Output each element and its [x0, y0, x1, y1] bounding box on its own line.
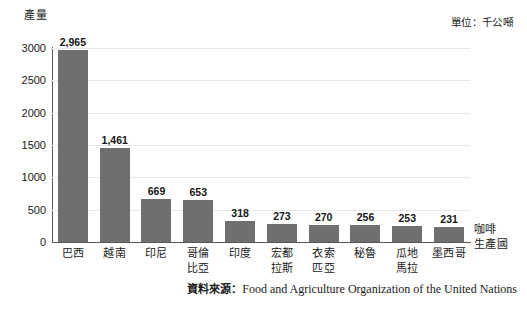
- bar-value-label: 231: [440, 213, 458, 225]
- coffee-production-bar-chart: 產量 單位：千公噸 300025002000150010005000 2,965…: [0, 0, 527, 310]
- category-label: 哥倫 比亞: [177, 246, 219, 276]
- bar-group: 253: [386, 48, 428, 242]
- category-label: 墨西哥: [428, 246, 470, 261]
- y-axis-tick-label: 2000: [22, 107, 46, 119]
- y-axis-title: 產量: [24, 6, 47, 22]
- bar[interactable]: [267, 224, 297, 242]
- bar-value-label: 253: [399, 212, 417, 224]
- category-label: 瓜地 馬拉: [386, 246, 428, 276]
- bar[interactable]: [309, 225, 339, 242]
- source-label: 資料來源：: [187, 283, 242, 295]
- bar-value-label: 273: [273, 210, 291, 222]
- bars-layer: 2,9651,461669653318273270256253231: [52, 48, 470, 242]
- bar[interactable]: [434, 227, 464, 242]
- y-axis-tick-label: 3000: [22, 42, 46, 54]
- bar-value-label: 653: [190, 186, 208, 198]
- category-label: 秘魯: [345, 246, 387, 261]
- source-line: 資料來源：Food and Agriculture Organization o…: [0, 280, 517, 297]
- category-label: 宏都 拉斯: [261, 246, 303, 276]
- bar[interactable]: [350, 225, 380, 242]
- bar-group: 256: [345, 48, 387, 242]
- bar[interactable]: [183, 200, 213, 242]
- bar-value-label: 318: [231, 207, 249, 219]
- category-label: 越南: [94, 246, 136, 261]
- bar-group: 1,461: [94, 48, 136, 242]
- bar-value-label: 669: [148, 185, 166, 197]
- bar-group: 231: [428, 48, 470, 242]
- y-axis-tick-label: 1500: [22, 139, 46, 151]
- source-text: Food and Agriculture Organization of the…: [242, 282, 517, 296]
- bar-group: 2,965: [52, 48, 94, 242]
- bar-value-label: 2,965: [60, 36, 86, 48]
- gridline: [52, 242, 470, 243]
- bar[interactable]: [225, 221, 255, 242]
- y-axis-tick-label: 0: [40, 236, 46, 248]
- plot-area: 300025002000150010005000 2,9651,46166965…: [52, 48, 470, 242]
- bar-group: 270: [303, 48, 345, 242]
- bar-value-label: 256: [357, 211, 375, 223]
- bar[interactable]: [392, 226, 422, 242]
- bar-group: 273: [261, 48, 303, 242]
- bar-value-label: 1,461: [102, 134, 128, 146]
- category-label: 衣索 匹亞: [303, 246, 345, 276]
- x-axis-title: 咖啡 生產國: [474, 222, 508, 252]
- unit-note: 單位：千公噸: [451, 14, 513, 29]
- bar-group: 653: [177, 48, 219, 242]
- category-label: 巴西: [52, 246, 94, 261]
- y-axis-tick-label: 500: [28, 204, 46, 216]
- bar[interactable]: [58, 50, 88, 242]
- category-label: 印度: [219, 246, 261, 261]
- y-axis-tick-label: 2500: [22, 74, 46, 86]
- bar-group: 318: [219, 48, 261, 242]
- bar[interactable]: [141, 199, 171, 242]
- y-axis-tick-label: 1000: [22, 171, 46, 183]
- bar-value-label: 270: [315, 211, 333, 223]
- bar[interactable]: [100, 148, 130, 242]
- bar-group: 669: [136, 48, 178, 242]
- category-label: 印尼: [136, 246, 178, 261]
